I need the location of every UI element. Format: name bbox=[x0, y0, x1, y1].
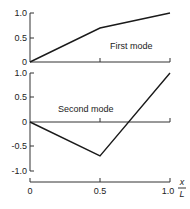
mode-shape-chart: 1.0 0.5 0 First mode 1.0 0.5 0 -0.5 -1.0… bbox=[0, 0, 190, 209]
bottom-ytick-label-m1: -1.0 bbox=[11, 166, 27, 176]
second-mode-plot: 1.0 0.5 0 -0.5 -1.0 Second mode bbox=[11, 68, 170, 176]
xtick-label-1: 1.0 bbox=[162, 186, 175, 196]
xlabel-denominator: L bbox=[179, 189, 184, 199]
xtick-label-0: 0 bbox=[27, 186, 32, 196]
second-mode-label: Second mode bbox=[58, 104, 114, 114]
xlabel-numerator: x bbox=[179, 177, 185, 187]
bottom-ytick-label-0: 0 bbox=[22, 117, 27, 127]
x-axis: 0 0.5 1.0 x L bbox=[27, 177, 186, 199]
bottom-ytick-label-1: 1.0 bbox=[14, 68, 27, 78]
top-ytick-label-1: 1.0 bbox=[14, 8, 27, 18]
bottom-ytick-label-05: 0.5 bbox=[14, 92, 27, 102]
top-ytick-label-0: 0 bbox=[22, 57, 27, 67]
second-mode-curve bbox=[30, 73, 170, 156]
first-mode-curve bbox=[30, 13, 170, 62]
xtick-label-05: 0.5 bbox=[94, 186, 107, 196]
first-mode-label: First mode bbox=[110, 41, 153, 51]
bottom-ytick-label-m05: -0.5 bbox=[11, 141, 27, 151]
top-ytick-label-05: 0.5 bbox=[14, 33, 27, 43]
first-mode-plot: 1.0 0.5 0 First mode bbox=[14, 8, 170, 67]
